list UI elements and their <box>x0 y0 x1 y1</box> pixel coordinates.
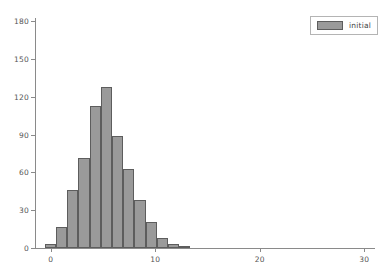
legend-label-initial: initial <box>349 21 371 30</box>
histogram-bar <box>112 136 123 248</box>
histogram-bar <box>157 238 168 248</box>
plot-area: 0306090120150180 0102030 <box>35 21 380 248</box>
histogram-bar <box>56 227 67 248</box>
x-tick-label: 0 <box>48 255 53 264</box>
histogram-bar <box>67 190 78 248</box>
histogram-bar <box>134 200 145 248</box>
chart-legend: initial <box>310 16 378 35</box>
y-tick-label: 150 <box>14 54 29 63</box>
histogram-bar <box>123 169 134 248</box>
histogram-bar <box>90 106 101 249</box>
histogram-bar <box>45 244 56 248</box>
y-tick-label: 90 <box>19 130 29 139</box>
y-tick-label: 180 <box>14 17 29 26</box>
histogram-bars <box>35 21 380 248</box>
x-tick-mark <box>364 248 365 252</box>
histogram-bar <box>179 246 190 248</box>
histogram-bar <box>101 87 112 248</box>
histogram-bar <box>146 222 157 248</box>
x-tick-mark <box>51 248 52 252</box>
x-tick-label: 20 <box>255 255 265 264</box>
x-axis-spine <box>35 248 375 249</box>
x-tick-label: 30 <box>359 255 369 264</box>
x-tick-mark <box>155 248 156 252</box>
y-tick-label: 60 <box>19 168 29 177</box>
y-tick-label: 0 <box>24 244 29 253</box>
x-tick-mark <box>260 248 261 252</box>
histogram-bar <box>78 158 89 248</box>
y-tick-label: 30 <box>19 206 29 215</box>
x-tick-label: 10 <box>150 255 160 264</box>
y-tick-label: 120 <box>14 92 29 101</box>
histogram-bar <box>168 244 179 248</box>
y-tick-mark <box>31 248 35 249</box>
histogram-figure: 0306090120150180 0102030 initial <box>0 0 380 272</box>
legend-swatch-initial <box>317 21 343 30</box>
